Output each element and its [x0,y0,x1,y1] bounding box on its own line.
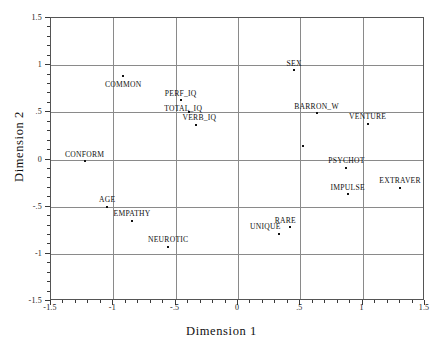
x-tick-minor [187,300,188,303]
point-label: AGE [99,195,115,204]
scatter-plot-figure: COMMONSEXPERF_IQTOTAL_IQVERB_IQBARRON_WV… [0,0,443,349]
x-tick-label: -.5 [170,303,179,312]
y-tick-major [45,64,50,65]
x-tick-label: 0 [235,303,239,312]
data-point [131,220,133,222]
data-point [293,69,295,71]
y-tick-minor [47,225,50,226]
y-tick-label: -1 [35,248,42,257]
data-point [195,124,197,126]
x-tick-minor [249,300,250,303]
point-label: PSYCHOT [328,156,364,165]
point-label: VERB_IQ [182,113,216,122]
x-axis-title: Dimension 1 [0,324,443,339]
data-point [289,226,291,228]
point-label: VENTURE [349,112,386,121]
y-tick-minor [47,234,50,235]
point-label: COMMON [105,80,142,89]
x-tick-minor [200,300,201,303]
y-tick-minor [47,177,50,178]
x-tick-minor [399,300,400,303]
y-tick-minor [47,130,50,131]
y-tick-minor [47,83,50,84]
x-tick-minor [212,300,213,303]
point-label: UNIQUE [250,222,281,231]
x-tick-minor [62,300,63,303]
data-point [316,112,318,114]
y-tick-label: -1.5 [29,296,42,305]
gridline-horizontal [51,65,423,66]
y-tick-minor [47,149,50,150]
y-tick-minor [47,215,50,216]
y-tick-major [45,159,50,160]
y-tick-minor [47,55,50,56]
point-label: SEX [287,59,302,68]
point-label: NEUROTIC [148,234,188,243]
x-tick-label: 1 [360,303,364,312]
gridline-horizontal [51,254,423,255]
x-tick-minor [137,300,138,303]
y-tick-minor [47,168,50,169]
gridline-vertical [113,18,114,299]
data-point [167,246,169,248]
data-point [399,187,401,189]
x-tick-minor [162,300,163,303]
x-tick-minor [125,300,126,303]
y-tick-minor [47,281,50,282]
plot-area: COMMONSEXPERF_IQTOTAL_IQVERB_IQBARRON_WV… [50,17,424,300]
y-tick-minor [47,45,50,46]
y-tick-minor [47,121,50,122]
y-tick-label: 1 [38,60,42,69]
x-tick-minor [274,300,275,303]
x-tick-minor [87,300,88,303]
y-tick-major [45,300,50,301]
data-point [367,123,369,125]
x-tick-minor [262,300,263,303]
point-label: CONFORM [65,149,104,158]
y-tick-minor [47,36,50,37]
y-tick-minor [47,291,50,292]
y-tick-label: -.5 [33,201,42,210]
y-tick-label: 0 [38,154,42,163]
data-point [180,99,182,101]
x-tick-minor [349,300,350,303]
x-tick-minor [225,300,226,303]
x-tick-minor [412,300,413,303]
y-tick-major [45,17,50,18]
x-tick-minor [75,300,76,303]
x-tick-minor [374,300,375,303]
y-tick-label: 1.5 [31,13,42,22]
gridline-horizontal [51,160,423,161]
x-tick-minor [337,300,338,303]
x-tick-minor [150,300,151,303]
y-tick-label: .5 [36,107,42,116]
x-tick-minor [387,300,388,303]
point-label: TOTAL_IQ [164,103,202,112]
x-tick-minor [287,300,288,303]
y-tick-minor [47,140,50,141]
data-point [345,167,347,169]
y-tick-major [45,206,50,207]
y-tick-minor [47,243,50,244]
x-tick-minor [100,300,101,303]
y-tick-minor [47,92,50,93]
y-axis-title: Dimension 2 [12,72,27,222]
y-tick-major [45,111,50,112]
point-label: EMPATHY [114,209,151,218]
x-tick-label: .5 [296,303,302,312]
data-point [84,160,86,162]
point-label: EXTRAVER [379,176,421,185]
data-point [278,233,280,235]
gridline-vertical [176,18,177,299]
data-point [347,193,349,195]
y-tick-minor [47,187,50,188]
y-tick-minor [47,26,50,27]
point-label: BARRON_W [294,101,339,110]
x-tick-label: -1.5 [43,303,56,312]
x-tick-minor [312,300,313,303]
y-tick-minor [47,74,50,75]
x-tick-minor [324,300,325,303]
x-tick-label: 1.5 [419,303,430,312]
data-point [302,145,304,147]
data-point [122,75,124,77]
